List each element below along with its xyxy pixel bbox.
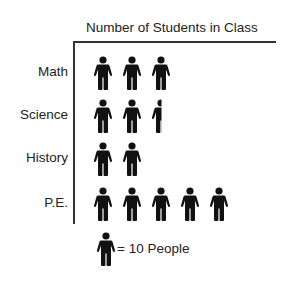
person-icon [93,56,113,90]
person-icon [122,142,142,176]
person-icon [122,56,142,90]
person-icon [151,56,171,90]
person-icon [93,142,113,176]
person-icon [122,187,142,221]
row-label-pe: P.E. [44,195,68,210]
person-icon [93,99,113,133]
person-icon [96,232,116,266]
chart-title: Number of Students in Class [86,20,258,35]
legend-text: = 10 People [117,241,189,256]
person-icon [93,187,113,221]
x-axis-line [73,41,276,43]
legend: = 10 People [96,232,256,266]
person-icon [209,187,229,221]
person-icon [122,99,142,133]
row-label-science: Science [20,107,68,122]
person-icon [180,187,200,221]
row-label-math: Math [38,64,68,79]
y-axis-line [73,41,75,224]
row-label-history: History [26,150,68,165]
person-icon [151,187,171,221]
half-person-icon [151,99,171,133]
